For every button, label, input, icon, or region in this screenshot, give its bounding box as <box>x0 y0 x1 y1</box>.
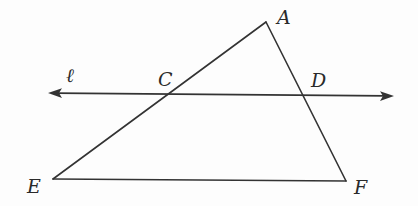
label-d: D <box>310 69 326 91</box>
line-l <box>56 93 386 96</box>
label-c: C <box>158 68 173 90</box>
segment-ef <box>53 179 346 181</box>
geometry-diagram: A C D E F ℓ <box>0 0 418 206</box>
label-line-l: ℓ <box>66 64 74 86</box>
segment-ae <box>53 22 266 179</box>
label-a: A <box>275 6 291 28</box>
segment-af <box>266 22 346 181</box>
diagram-canvas: A C D E F ℓ <box>0 0 418 206</box>
label-f: F <box>353 176 368 198</box>
label-e: E <box>26 175 41 197</box>
